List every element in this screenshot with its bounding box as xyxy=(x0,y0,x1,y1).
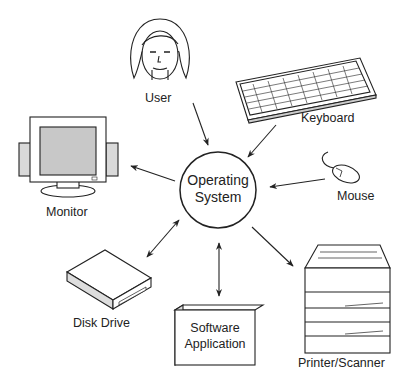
printer-icon xyxy=(305,245,390,353)
monitor-icon xyxy=(19,117,118,197)
operating-system-label: Operating System xyxy=(180,172,256,206)
printer-scanner-label: Printer/Scanner xyxy=(298,356,385,370)
arrow-os-to-monitor xyxy=(131,166,175,181)
monitor-label: Monitor xyxy=(46,205,88,219)
mouse-icon xyxy=(322,152,362,186)
disk-drive-label: Disk Drive xyxy=(73,316,130,330)
os-label-line2: System xyxy=(180,189,256,206)
keyboard-label: Keyboard xyxy=(301,111,355,125)
arrow-os-disk-bidirectional xyxy=(147,220,179,257)
user-face-icon xyxy=(131,19,190,80)
software-label-line1: Software xyxy=(175,320,255,336)
arrow-keyboard-to-os xyxy=(248,125,276,157)
arrow-mouse-to-os xyxy=(270,179,325,187)
software-label-line2: Application xyxy=(175,336,255,352)
software-application-label: Software Application xyxy=(175,320,255,352)
mouse-label: Mouse xyxy=(337,189,375,203)
arrow-user-to-os xyxy=(193,103,208,145)
arrow-os-to-printer xyxy=(252,227,293,266)
os-label-line1: Operating xyxy=(180,172,256,189)
user-label: User xyxy=(145,91,171,105)
disk-drive-icon xyxy=(67,250,151,309)
